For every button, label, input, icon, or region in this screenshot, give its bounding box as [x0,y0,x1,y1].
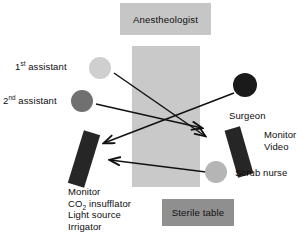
scrub-nurse-label: Scrub nurse [235,167,287,179]
equipment-line-co2-insufflator: CO2 insufflator [68,198,131,210]
second-assistant-ordinal-suffix: nd [8,94,15,101]
sterile-table-box: Sterile table [162,199,234,226]
anesthesiologist-box: Anestheologist [120,3,211,35]
second-assistant-role: assistant [16,95,57,106]
surgeon-label: Surgeon [229,110,266,122]
monitor-video-line-monitor: Monitor [264,129,296,141]
equipment-list: Monitor CO2 insufflator Light source Irr… [68,186,131,232]
second-assistant-marker [71,90,93,112]
monitor-video-label: Monitor Video [264,129,296,152]
equipment-line-monitor: Monitor [68,186,131,198]
equipment-line-light-source: Light source [68,209,131,221]
anesthesiologist-label: Anestheologist [133,14,198,25]
operating-table [132,46,200,187]
first-assistant-label: 1st assistant [15,61,67,73]
monitor-left-marker [68,130,100,188]
sterile-table-label: Sterile table [172,207,225,218]
monitor-video-line-video: Video [264,141,296,153]
first-assistant-role: assistant [26,61,67,72]
co2-prefix: CO [68,198,82,209]
second-assistant-label: 2nd assistant [3,95,57,107]
scrub-nurse-marker [205,161,227,183]
co2-suffix: insufflator [86,198,131,209]
equipment-line-irrigator: Irrigator [68,221,131,233]
first-assistant-marker [89,57,111,79]
operating-room-diagram: Anestheologist Sterile table 1st assista… [0,0,308,237]
surgeon-marker [233,73,257,97]
